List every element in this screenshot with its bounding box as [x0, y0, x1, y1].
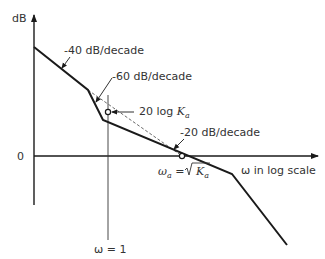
- bode-plot-diagram: dB 0 -40 dB/decade -60 dB/decade 20 log …: [0, 0, 325, 259]
- y-axis-label: dB: [12, 12, 27, 25]
- slope-40-label: -40 dB/decade: [64, 44, 144, 57]
- gain-label: 20 log Ka: [139, 105, 190, 120]
- omega-one-label: ω = 1: [94, 243, 126, 256]
- slope-20-label: -20 dB/decade: [180, 126, 260, 139]
- omega-a-label: ωa = Ka: [158, 165, 209, 180]
- omega-a-point-marker: [179, 153, 184, 158]
- gain-point-marker: [105, 109, 110, 114]
- slope-60-label: -60 dB/decade: [112, 70, 192, 83]
- slope-20-leader-arrow: [174, 139, 184, 149]
- slope-60-leader-arrow: [96, 78, 112, 102]
- zero-label: 0: [17, 150, 24, 163]
- x-axis-label: ω in log scale: [241, 164, 316, 177]
- slope-40-leader-arrow: [62, 57, 70, 68]
